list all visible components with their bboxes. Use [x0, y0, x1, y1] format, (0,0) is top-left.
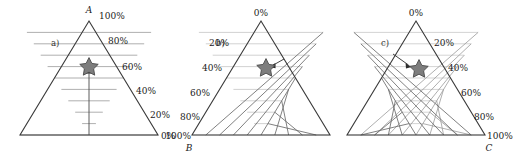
panel-c-tag: c) — [381, 38, 389, 48]
panel-a-tick-60: 60% — [122, 62, 142, 72]
panel-c-corner-vertex-label: C — [486, 143, 493, 153]
panel-a-tick-40: 40% — [136, 86, 156, 96]
panel-b-tick-20: 20% — [209, 38, 229, 48]
panel-a-tag: a) — [51, 38, 59, 48]
panel-b-tick-60: 60% — [190, 88, 210, 98]
panel-c-tick-0: 0% — [409, 8, 424, 18]
ternary-diagram-figure: A a) 100% 80% 60% 40% 20% 0% — [0, 0, 522, 156]
panel-a-tick-20: 20% — [150, 110, 170, 120]
panel-a-tick-80: 80% — [108, 36, 128, 46]
panel-a-apex-vertex-label: A — [85, 5, 93, 15]
panel-c-tick-20: 20% — [434, 38, 454, 48]
panel-b-tick-40: 40% — [202, 63, 222, 73]
panel-b-corner-vertex-label: B — [185, 143, 193, 153]
panel-c-tick-60: 60% — [461, 88, 481, 98]
panel-a-star-marker — [80, 58, 98, 76]
panel-c-star-marker — [410, 60, 428, 78]
panel-c-tick-40: 40% — [448, 63, 468, 73]
panel-b-tick-0: 0% — [254, 8, 269, 18]
panel-a-tick-100: 100% — [99, 11, 125, 21]
panel-b: 0% b) 20% 40% 60% 80% 100% B — [165, 8, 330, 153]
panel-c-tick-100: 100% — [487, 131, 513, 141]
panel-c: 0% c) 20% 40% 60% 80% 100% C — [347, 8, 513, 153]
panel-c-grid-horizontal — [347, 32, 485, 135]
panel-b-tick-80: 80% — [180, 112, 200, 122]
panel-c-tick-80: 80% — [474, 112, 494, 122]
panel-c-guide-line — [393, 54, 409, 65]
panel-b-star-marker — [257, 59, 275, 77]
panel-b-tick-100: 100% — [165, 131, 191, 141]
panel-a: A a) 100% 80% 60% 40% 20% 0% — [20, 5, 176, 141]
figure-canvas: A a) 100% 80% 60% 40% 20% 0% — [0, 0, 522, 156]
